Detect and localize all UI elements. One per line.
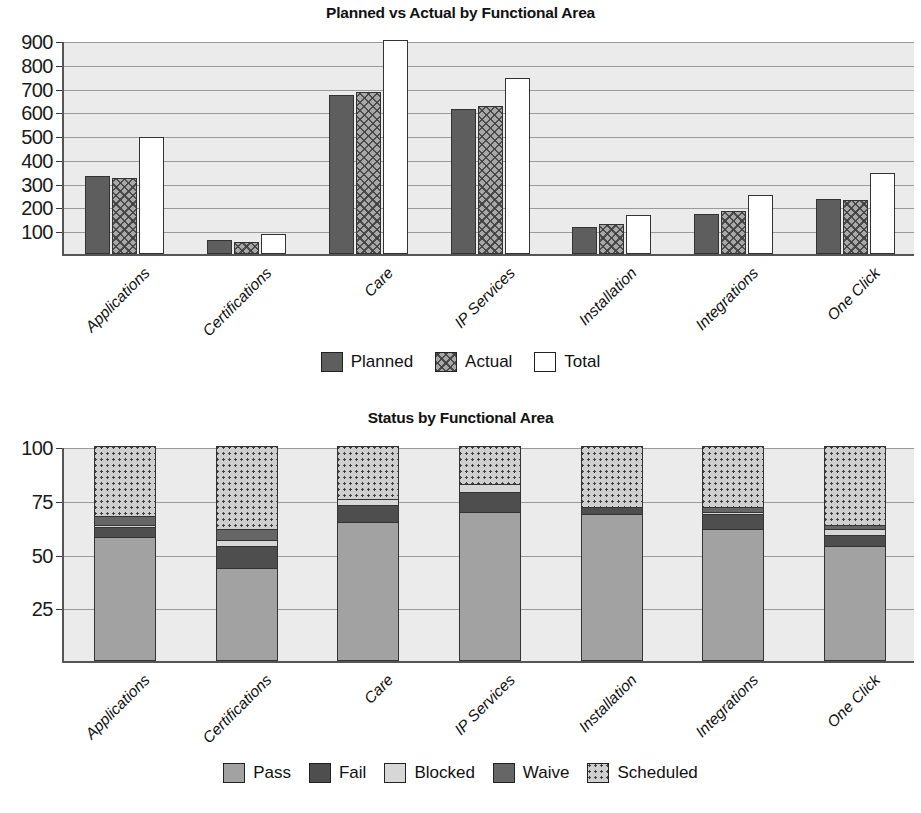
bar-installation-actual xyxy=(599,224,624,254)
bar-integrations-total xyxy=(748,195,773,254)
segment-applications-blocked xyxy=(94,525,156,527)
chart1-y-tick-label: 900 xyxy=(21,32,53,52)
bar-certifications-total xyxy=(261,234,286,254)
chart1-legend-label: Planned xyxy=(351,352,413,372)
bar-care-planned xyxy=(329,95,354,254)
scheduled-swatch xyxy=(587,763,609,783)
segment-applications-pass xyxy=(94,537,156,660)
chart1-y-tick-label: 400 xyxy=(21,151,53,171)
chart2-legend-item-pass: Pass xyxy=(223,763,291,783)
chart2-y-tick-label: 100 xyxy=(21,438,53,458)
chart1-y-tick-mark xyxy=(56,90,62,91)
chart2-legend-item-blocked: Blocked xyxy=(384,763,474,783)
chart1-y-tick-mark xyxy=(56,232,62,233)
chart1-y-tick-label: 800 xyxy=(21,56,53,76)
grouped-bar-chart: Planned vs Actual by Functional Area 100… xyxy=(0,0,921,400)
segment-installation-fail xyxy=(581,507,643,513)
segment-applications-scheduled xyxy=(94,446,156,516)
chart2-legend-label: Pass xyxy=(253,763,291,783)
segment-applications-waive xyxy=(94,516,156,525)
fail-swatch xyxy=(309,763,331,783)
segment-one-click-pass xyxy=(824,546,886,660)
segment-one-click-blocked xyxy=(824,529,886,535)
bar-ip-services-planned xyxy=(451,109,476,254)
bar-installation-total xyxy=(626,215,651,254)
segment-integrations-blocked xyxy=(702,512,764,514)
chart2-plot-wrapper: 255075100 ApplicationsCertificationsCare… xyxy=(0,400,921,750)
chart1-legend-label: Total xyxy=(564,352,600,372)
chart2-legend-item-waive: Waive xyxy=(493,763,570,783)
chart1-y-tick-mark xyxy=(56,208,62,209)
stacked-bar-applications xyxy=(94,446,156,661)
stacked-bar-installation xyxy=(581,446,643,661)
chart-page: Planned vs Actual by Functional Area 100… xyxy=(0,0,921,813)
segment-certifications-scheduled xyxy=(216,446,278,529)
blocked-swatch xyxy=(384,763,406,783)
segment-ip-services-fail xyxy=(459,492,521,511)
chart2-legend-label: Fail xyxy=(339,763,366,783)
chart2-y-tick-mark xyxy=(56,502,62,503)
chart2-legend-label: Blocked xyxy=(414,763,474,783)
chart1-y-tick-label: 200 xyxy=(21,198,53,218)
chart2-legend-label: Waive xyxy=(523,763,570,783)
waive-swatch xyxy=(493,763,515,783)
chart1-legend-item-actual: Actual xyxy=(435,352,512,372)
bar-ip-services-total xyxy=(505,78,530,254)
chart1-plot-area xyxy=(62,42,914,256)
chart1-y-tick-label: 300 xyxy=(21,175,53,195)
chart1-legend: PlannedActualTotal xyxy=(0,352,921,372)
stacked-bar-ip-services xyxy=(459,446,521,661)
actual-swatch xyxy=(435,352,457,372)
chart1-plot-wrapper: 100200300400500600700800900 Applications… xyxy=(0,0,921,340)
segment-certifications-pass xyxy=(216,568,278,660)
planned-swatch xyxy=(321,352,343,372)
segment-integrations-scheduled xyxy=(702,446,764,507)
bar-one-click-actual xyxy=(843,200,868,254)
segment-one-click-scheduled xyxy=(824,446,886,525)
chart2-y-tick-mark xyxy=(56,609,62,610)
chart2-y-tick-label: 25 xyxy=(32,599,53,619)
segment-care-blocked xyxy=(337,499,399,505)
segment-integrations-pass xyxy=(702,529,764,660)
chart1-y-tick-mark xyxy=(56,113,62,114)
segment-one-click-fail xyxy=(824,535,886,546)
bar-applications-total xyxy=(139,137,164,254)
bar-applications-actual xyxy=(112,178,137,254)
chart1-y-tick-label: 700 xyxy=(21,80,53,100)
chart1-y-tick-mark xyxy=(56,137,62,138)
bar-care-total xyxy=(383,40,408,254)
segment-integrations-fail xyxy=(702,514,764,529)
chart2-legend-item-fail: Fail xyxy=(309,763,366,783)
chart1-legend-item-planned: Planned xyxy=(321,352,413,372)
chart2-y-tick-mark xyxy=(56,556,62,557)
segment-installation-pass xyxy=(581,514,643,660)
chart2-y-tick-label: 50 xyxy=(32,546,53,566)
stacked-bar-integrations xyxy=(702,446,764,661)
bar-integrations-actual xyxy=(721,211,746,254)
gridline xyxy=(64,42,914,43)
chart1-legend-label: Actual xyxy=(465,352,512,372)
segment-one-click-waive xyxy=(824,525,886,529)
chart1-y-tick-mark xyxy=(56,161,62,162)
segment-care-scheduled xyxy=(337,446,399,499)
bar-one-click-total xyxy=(870,173,895,254)
chart2-legend: PassFailBlockedWaiveScheduled xyxy=(0,763,921,783)
stacked-bar-chart: Status by Functional Area 255075100 Appl… xyxy=(0,400,921,813)
chart2-legend-label: Scheduled xyxy=(617,763,697,783)
stacked-bar-one-click xyxy=(824,446,886,661)
gridline xyxy=(64,66,914,67)
chart1-y-tick-label: 100 xyxy=(21,222,53,242)
chart1-y-tick-label: 600 xyxy=(21,103,53,123)
bar-care-actual xyxy=(356,92,381,254)
segment-installation-scheduled xyxy=(581,446,643,507)
total-swatch xyxy=(534,352,556,372)
segment-certifications-fail xyxy=(216,546,278,568)
segment-care-fail xyxy=(337,505,399,522)
chart2-y-tick-mark xyxy=(56,448,62,449)
segment-certifications-waive xyxy=(216,529,278,540)
chart2-y-tick-label: 75 xyxy=(32,492,53,512)
chart1-y-tick-mark xyxy=(56,66,62,67)
bar-applications-planned xyxy=(85,176,110,254)
bar-integrations-planned xyxy=(694,214,719,254)
segment-integrations-waive xyxy=(702,507,764,511)
